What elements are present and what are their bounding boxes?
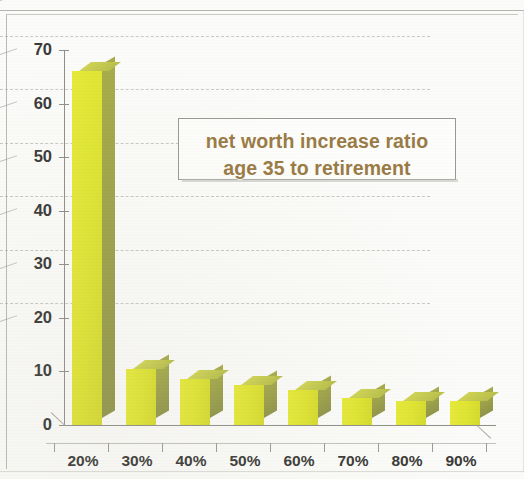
x-axis-tick-label: 30% (109, 452, 165, 470)
y-axis (64, 50, 65, 425)
x-axis (64, 425, 496, 426)
x-axis-tick (486, 443, 487, 452)
y-axis-tick (59, 211, 69, 212)
bar (180, 370, 210, 425)
bar (396, 392, 426, 425)
x-axis-tick-label: 70% (325, 452, 381, 470)
bar-face (342, 398, 372, 425)
x-axis-tick-label: 40% (163, 452, 219, 470)
y-axis-tick-label: 70 (8, 40, 52, 59)
y-axis-tick (59, 318, 69, 319)
y-axis-tick-label: 10 (8, 361, 52, 380)
y-axis-tick-label: 30 (8, 254, 52, 273)
y-axis-tick-label: 40 (8, 201, 52, 220)
bar-chart-figure: 010203040506070 20%30%40%50%60%70%80%90%… (0, 0, 524, 479)
page-bottom-rule (0, 471, 524, 472)
y-axis-tick (59, 157, 69, 158)
bar (126, 360, 156, 425)
y-axis-tick (59, 50, 69, 51)
bar (288, 381, 318, 425)
bar-face (288, 390, 318, 425)
bar-face (180, 379, 210, 425)
annotation-text: net worth increase ratio age 35 to retir… (179, 119, 455, 182)
x-axis-tick (108, 443, 109, 452)
y-axis-tick (59, 264, 69, 265)
x-axis-tick-label: 60% (271, 452, 327, 470)
y-axis-tick-label: 20 (8, 308, 52, 327)
bar-face (450, 401, 480, 425)
y-axis-tick-label: 0 (8, 415, 52, 434)
bar-face (396, 401, 426, 425)
y-axis-tick-label: 50 (8, 147, 52, 166)
annotation-line-1: net worth increase ratio (179, 128, 455, 155)
x-axis-tick (378, 443, 379, 452)
x-axis-tick (162, 443, 163, 452)
bar-side (102, 57, 115, 418)
x-axis-tick-label: 90% (433, 452, 489, 470)
x-axis-tick-label: 80% (379, 452, 435, 470)
gridline (0, 36, 430, 38)
x-axis-tick-label: 50% (217, 452, 273, 470)
bar-face (126, 369, 156, 425)
annotation-callout: net worth increase ratio age 35 to retir… (178, 118, 456, 180)
y-axis-tick (59, 371, 69, 372)
floor-front-edge (46, 443, 496, 444)
x-axis-tick (270, 443, 271, 452)
x-axis-tick (54, 443, 55, 452)
bar (72, 62, 102, 425)
x-axis-tick (216, 443, 217, 452)
annotation-line-2: age 35 to retirement (179, 155, 455, 182)
bar (342, 389, 372, 425)
bar-face (72, 71, 102, 425)
bar (234, 376, 264, 425)
x-axis-tick-label: 20% (55, 452, 111, 470)
gridline-depth-connector (0, 0, 17, 1)
bar-face (234, 385, 264, 425)
y-axis-tick (59, 104, 69, 105)
bar (450, 392, 480, 425)
y-axis-tick-label: 60 (8, 94, 52, 113)
x-axis-tick (324, 443, 325, 452)
x-axis-tick (432, 443, 433, 452)
